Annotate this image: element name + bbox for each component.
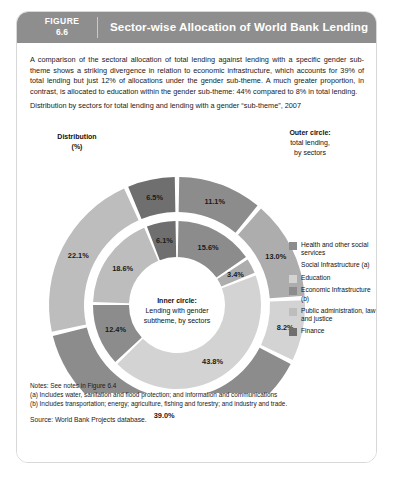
distribution-label-line2: (%) [41, 142, 113, 152]
figure-source: Source: World Bank Projects database. [30, 415, 364, 424]
notes-line-3: (b) Includes transportation; energy; agr… [30, 399, 364, 408]
figure-title: Sector-wise Allocation of World Bank Len… [110, 20, 368, 33]
distribution-label-line1: Distribution [41, 132, 113, 142]
legend-item-label: Education [301, 274, 330, 282]
chart-legend: Health and other social servicesSocial I… [289, 241, 377, 339]
outer-circle-label-line3: by sectors [258, 148, 362, 158]
figure-notes: Notes: See notes in Figure 6.4 (a) Inclu… [30, 381, 364, 408]
pie-slice-value: 13.0% [265, 251, 286, 260]
figure-header: FIGURE 6.6 Sector-wise Allocation of Wor… [17, 12, 377, 43]
pie-slice-value: 11.1% [205, 197, 226, 206]
legend-item-label: Public administration, law and justice [301, 307, 377, 324]
legend-item[interactable]: Education [289, 274, 377, 283]
pie-slice-value: 22.1% [68, 251, 89, 260]
header-divider [97, 17, 98, 38]
inner-circle-label-line2: Lending with gender [117, 306, 237, 316]
legend-item-label: Economic Infrastructure (b) [301, 286, 377, 303]
inner-circle-label: Inner circle: Lending with gender subthe… [117, 296, 237, 325]
legend-item[interactable]: Economic Infrastructure (b) [289, 286, 377, 303]
notes-line-2: (a) Includes water, sanitation and flood… [30, 390, 364, 399]
distribution-label: Distribution (%) [41, 132, 113, 152]
pie-slice-value: 6.5% [146, 192, 163, 201]
legend-swatch-icon [289, 328, 297, 336]
figure-label: FIGURE [32, 16, 92, 27]
chart-subcaption: Distribution by sectors for total lendin… [30, 101, 364, 112]
pie-slice[interactable] [117, 276, 261, 389]
legend-item[interactable]: Finance [289, 327, 377, 336]
legend-swatch-icon [289, 287, 297, 295]
legend-swatch-icon [289, 308, 297, 316]
figure-number: 6.6 [32, 27, 92, 38]
legend-item-label: Social Infrastructure (a) [301, 261, 370, 269]
pie-slice-value: 6.1% [156, 236, 173, 245]
figure-body: A comparison of the sectoral allocation … [17, 43, 377, 463]
pie-slice-value: 43.8% [202, 356, 223, 365]
pie-slice-value: 15.6% [198, 242, 219, 251]
legend-swatch-icon [289, 262, 297, 270]
figure-card: FIGURE 6.6 Sector-wise Allocation of Wor… [16, 11, 377, 463]
legend-item[interactable]: Social Infrastructure (a) [289, 261, 377, 270]
pie-slice-value: 18.6% [112, 263, 133, 272]
pie-slice-value: 3.4% [227, 270, 244, 279]
legend-swatch-icon [289, 275, 297, 283]
intro-paragraph: A comparison of the sectoral allocation … [30, 55, 364, 97]
outer-circle-label-line2: total lending, [258, 138, 362, 148]
notes-line-1: Notes: See notes in Figure 6.4 [30, 381, 364, 390]
outer-circle-label-line1: Outer circle: [289, 129, 330, 136]
pie-slice-value: 12.4% [105, 325, 126, 334]
inner-circle-label-line1: Inner circle: [117, 296, 237, 306]
legend-swatch-icon [289, 242, 297, 250]
legend-item-label: Health and other social services [301, 241, 377, 258]
inner-circle-label-line3: subtheme, by sectors [117, 316, 237, 326]
legend-item[interactable]: Health and other social services [289, 241, 377, 258]
legend-item[interactable]: Public administration, law and justice [289, 307, 377, 324]
outer-circle-label: Outer circle: total lending, by sectors [258, 128, 362, 158]
donut-chart: Distribution (%) Outer circle: total len… [17, 113, 377, 393]
legend-item-label: Finance [301, 327, 324, 335]
